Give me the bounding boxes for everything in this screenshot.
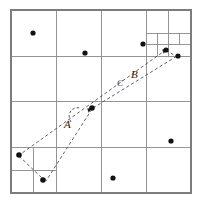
data-point-p3 (140, 41, 145, 46)
data-point-p6 (89, 105, 95, 111)
data-point-p10 (110, 175, 115, 180)
data-point-p9 (40, 177, 46, 183)
label-b: B (131, 68, 138, 80)
data-point-p8 (16, 152, 22, 158)
data-point-p4 (163, 47, 168, 52)
data-point-p1 (30, 30, 35, 35)
quadtree-figure: A B C (0, 0, 202, 205)
data-point-p5 (175, 53, 180, 58)
data-point-p7 (168, 138, 173, 143)
data-point-p2 (82, 50, 87, 55)
quadtree-diagram: A B C (0, 0, 202, 205)
label-c: C (117, 78, 124, 88)
